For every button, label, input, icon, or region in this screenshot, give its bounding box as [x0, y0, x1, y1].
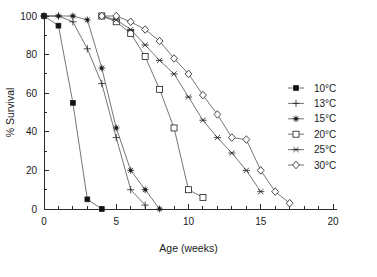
marker-open-diamond [286, 199, 293, 207]
marker-star [98, 65, 105, 72]
chart-axes [44, 14, 337, 209]
series-10C [42, 14, 105, 212]
marker-x-star [228, 150, 235, 155]
x-tick-label: 10 [183, 216, 195, 227]
x-tick-label: 20 [327, 216, 339, 227]
y-axis-ticks: 020406080100 [20, 11, 49, 215]
legend-label: 15°C [314, 113, 336, 124]
legend-item-20C[interactable]: 20°C [288, 129, 336, 140]
marker-star [84, 16, 91, 23]
marker-star [127, 167, 134, 174]
marker-open-diamond [243, 136, 250, 144]
y-tick-label: 100 [20, 11, 37, 22]
marker-star [55, 13, 62, 20]
marker-open-square [293, 131, 299, 137]
marker-open-square [200, 194, 206, 200]
marker-open-square [157, 86, 163, 92]
marker-filled-square [71, 100, 76, 105]
legend-item-10C[interactable]: 10°C [288, 83, 336, 94]
legend-label: 25°C [314, 144, 336, 155]
marker-x-star [156, 58, 163, 63]
chart-legend: 10°C13°C15°C20°C25°C30°C [288, 83, 336, 171]
x-axis-ticks: 05101520 [41, 204, 339, 227]
marker-x-star [292, 147, 299, 152]
x-tick-label: 5 [113, 216, 119, 227]
marker-x-star [142, 42, 149, 47]
y-tick-label: 60 [26, 88, 38, 99]
series-line [102, 16, 290, 203]
marker-filled-square [85, 197, 90, 202]
survival-chart: 05101520020406080100Age (weeks)% Surviva… [0, 0, 377, 277]
marker-star [293, 115, 300, 122]
legend-item-25C[interactable]: 25°C [288, 144, 336, 155]
legend-label: 20°C [314, 129, 336, 140]
legend-label: 10°C [314, 83, 336, 94]
series-line [102, 16, 203, 197]
series-15C [41, 13, 163, 213]
marker-x-star [257, 189, 264, 194]
marker-x-star [185, 94, 192, 99]
x-tick-label: 0 [41, 216, 47, 227]
marker-open-diamond [228, 134, 235, 142]
marker-filled-square [294, 86, 299, 91]
marker-open-square [171, 125, 177, 131]
marker-x-star [199, 118, 206, 123]
y-tick-label: 80 [26, 49, 38, 60]
survival-curve-figure: 05101520020406080100Age (weeks)% Surviva… [0, 0, 377, 277]
series-line [102, 16, 261, 192]
marker-open-diamond [257, 167, 264, 175]
y-tick-label: 0 [31, 204, 37, 215]
legend-label: 13°C [314, 98, 336, 109]
legend-item-13C[interactable]: 13°C [288, 98, 336, 109]
y-tick-label: 40 [26, 126, 38, 137]
marker-open-diamond [142, 26, 149, 34]
x-axis-title: Age (weeks) [159, 242, 217, 254]
marker-x-star [243, 168, 250, 173]
legend-label: 30°C [314, 160, 336, 171]
marker-plus [292, 100, 299, 107]
marker-open-diamond [127, 18, 134, 26]
marker-filled-square [99, 207, 104, 212]
marker-open-diamond [293, 161, 300, 169]
y-tick-label: 20 [26, 165, 38, 176]
marker-plus [98, 80, 105, 87]
x-tick-label: 15 [255, 216, 267, 227]
series-13C [40, 12, 148, 208]
marker-filled-square [56, 23, 61, 28]
series-20C [99, 13, 206, 200]
marker-star [156, 206, 163, 213]
marker-x-star [214, 135, 221, 140]
series-line [44, 16, 102, 209]
marker-star [70, 13, 77, 20]
marker-plus [84, 45, 91, 52]
series-25C [98, 13, 264, 194]
marker-x-star [170, 71, 177, 76]
marker-star [142, 186, 149, 193]
marker-open-square [186, 187, 192, 193]
legend-item-30C[interactable]: 30°C [288, 160, 336, 171]
marker-star [113, 125, 120, 132]
marker-star [41, 13, 48, 20]
marker-open-diamond [272, 188, 279, 196]
marker-open-square [142, 54, 148, 60]
legend-item-15C[interactable]: 15°C [288, 113, 336, 124]
y-axis-title: % Survival [4, 88, 16, 138]
